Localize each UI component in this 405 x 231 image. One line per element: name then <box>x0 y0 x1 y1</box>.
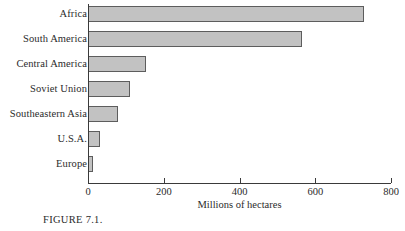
x-axis-tick <box>164 178 165 183</box>
bar-row: Africa <box>0 6 405 31</box>
x-axis-tick-label: 400 <box>232 186 248 197</box>
bar-row: U.S.A. <box>0 131 405 156</box>
bar-central-america <box>88 56 146 72</box>
bar-row: Soviet Union <box>0 81 405 106</box>
bar-row: Southeastern Asia <box>0 106 405 131</box>
bar-south-america <box>88 31 302 47</box>
bar-chart-plot-area: AfricaSouth AmericaCentral AmericaSoviet… <box>0 0 405 231</box>
bar-soviet-union <box>88 81 130 97</box>
x-axis-tick <box>240 178 241 183</box>
x-axis-line <box>88 183 391 184</box>
x-axis-title: Millions of hectares <box>88 199 391 210</box>
bar-row: Europe <box>0 156 405 181</box>
bar-category-label: Central America <box>16 56 87 72</box>
bar-category-label: Soviet Union <box>30 81 87 97</box>
x-axis-tick-label: 800 <box>383 186 399 197</box>
x-axis-tick <box>315 178 316 183</box>
figure-caption: FIGURE 7.1. <box>43 214 103 225</box>
x-axis-tick-label: 200 <box>156 186 172 197</box>
bar-category-label: U.S.A. <box>58 131 87 147</box>
bar-category-label: South America <box>23 31 87 47</box>
bar-rows: AfricaSouth AmericaCentral AmericaSoviet… <box>0 6 405 181</box>
bar-southeastern-asia <box>88 106 118 122</box>
y-axis-line <box>88 4 89 183</box>
figure-container: AfricaSouth AmericaCentral AmericaSoviet… <box>0 0 405 231</box>
bar-row: South America <box>0 31 405 56</box>
bar-category-label: Europe <box>56 156 87 172</box>
x-axis-tick-label: 0 <box>85 186 90 197</box>
bar-category-label: Africa <box>60 6 87 22</box>
bar-row: Central America <box>0 56 405 81</box>
bar-africa <box>88 6 364 22</box>
bar-category-label: Southeastern Asia <box>10 106 87 122</box>
x-axis-tick <box>88 178 89 183</box>
bar-u-s-a <box>88 131 100 147</box>
x-axis-tick-label: 600 <box>307 186 323 197</box>
x-axis-tick <box>391 178 392 183</box>
